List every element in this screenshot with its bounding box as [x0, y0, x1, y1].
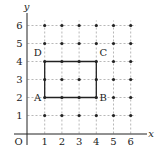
grid-dot	[129, 114, 132, 117]
x-tick-label: 5	[110, 136, 116, 147]
grid-dot	[43, 96, 46, 99]
grid-dots	[43, 24, 132, 117]
grid-dot	[43, 42, 46, 45]
grid-dot	[60, 24, 63, 27]
x-tick-label: 1	[42, 136, 48, 147]
y-tick-label: 1	[16, 110, 22, 121]
labels: 123456123456OxyABCD	[14, 1, 154, 147]
grid-dot	[78, 42, 81, 45]
y-tick-label: 3	[16, 74, 22, 85]
vertex-label-b: B	[100, 92, 107, 103]
y-tick-label: 5	[16, 38, 22, 49]
y-tick-label: 6	[16, 20, 22, 31]
grid-dot	[78, 114, 81, 117]
vertex-label-c: C	[99, 47, 107, 58]
grid-dot	[60, 114, 63, 117]
grid-dot	[129, 96, 132, 99]
x-axis-label: x	[148, 128, 154, 139]
grid-dot	[95, 24, 98, 27]
y-axis-label: y	[23, 1, 30, 12]
grid-dot	[78, 60, 81, 63]
grid-dot	[95, 60, 98, 63]
origin-label: O	[14, 136, 22, 147]
x-tick-label: 3	[76, 136, 82, 147]
grid-dot	[60, 96, 63, 99]
grid-dot	[129, 42, 132, 45]
grid-dot	[60, 60, 63, 63]
grid-dot	[43, 24, 46, 27]
grid-dot	[95, 78, 98, 81]
grid-dot	[112, 24, 115, 27]
grid-dot	[43, 60, 46, 63]
grid-dot	[60, 42, 63, 45]
grid-dot	[112, 114, 115, 117]
grid-dot	[43, 114, 46, 117]
grid-dot	[129, 24, 132, 27]
grid-dot	[129, 60, 132, 63]
vertex-label-d: D	[34, 47, 42, 58]
grid-dot	[112, 60, 115, 63]
vertex-label-a: A	[33, 92, 42, 103]
grid-dot	[78, 24, 81, 27]
grid-dot	[112, 78, 115, 81]
grid-dot	[129, 78, 132, 81]
grid-dot	[95, 114, 98, 117]
grid-dot	[95, 42, 98, 45]
x-tick-label: 6	[128, 136, 134, 147]
grid-dot	[95, 96, 98, 99]
grid-dot	[112, 42, 115, 45]
coordinate-grid-diagram: 123456123456OxyABCD	[0, 0, 157, 150]
grid-dot	[78, 96, 81, 99]
y-tick-label: 2	[16, 92, 22, 103]
grid-dot	[43, 78, 46, 81]
x-tick-label: 2	[59, 136, 65, 147]
grid-dot	[78, 78, 81, 81]
grid-dot	[60, 78, 63, 81]
x-tick-label: 4	[93, 136, 99, 147]
grid-dot	[112, 96, 115, 99]
y-tick-label: 4	[16, 56, 22, 67]
